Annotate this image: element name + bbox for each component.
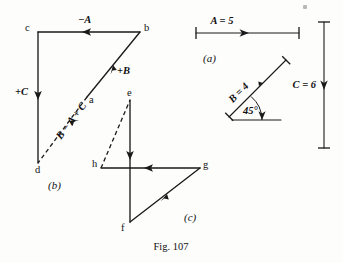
figure-canvas: c b a d −A +C +B B − A + C (b) bbox=[0, 0, 343, 263]
point-label-e: e bbox=[127, 87, 132, 98]
point-label-c: c bbox=[25, 22, 30, 33]
vector-label-minus-a: −A bbox=[78, 14, 91, 25]
point-label-h: h bbox=[92, 158, 98, 169]
point-label-b: b bbox=[144, 22, 149, 33]
panel-label-c: (c) bbox=[184, 211, 197, 224]
vector-label-resultant-b-minus-a-plus-c: B − A + C bbox=[53, 99, 89, 142]
key-vector-b-label: B = 4 bbox=[226, 80, 251, 105]
edge-a-to-b bbox=[87, 32, 140, 97]
figure-caption: Fig. 107 bbox=[153, 241, 188, 252]
edge-h-to-e-dashed bbox=[101, 100, 130, 168]
key-angle-label: 45° bbox=[242, 105, 259, 116]
vector-label-plus-b: +B bbox=[117, 65, 130, 76]
point-label-f: f bbox=[121, 222, 125, 233]
edge-b-to-c bbox=[38, 28, 140, 36]
panel-label-a: (a) bbox=[203, 52, 216, 65]
key-angle-annotation: 45° bbox=[232, 97, 281, 121]
point-label-a: a bbox=[89, 94, 94, 105]
panel-c-group: e f g h (c) bbox=[92, 87, 209, 233]
key-vector-a: A = 5 bbox=[196, 15, 299, 39]
key-vector-c: C = 6 bbox=[293, 22, 331, 148]
edge-c-to-d bbox=[34, 32, 42, 163]
point-label-g: g bbox=[203, 159, 209, 170]
figure-107: c b a d −A +C +B B − A + C (b) bbox=[0, 0, 343, 263]
scan-speck bbox=[303, 5, 307, 9]
panel-label-b: (b) bbox=[48, 179, 61, 192]
point-label-d: d bbox=[35, 164, 41, 175]
edge-g-to-h bbox=[101, 164, 200, 172]
key-vector-c-label: C = 6 bbox=[293, 79, 317, 90]
edge-h-to-e-line bbox=[101, 100, 130, 168]
key-vector-b-arrowhead bbox=[255, 82, 263, 89]
panel-a-key-group: A = 5 (a) B = 4 45° bbox=[196, 5, 330, 148]
panel-b-group: c b a d −A +C +B B − A + C (b) bbox=[15, 14, 149, 192]
edge-a-to-b-line bbox=[87, 32, 140, 97]
vector-label-plus-c: +C bbox=[15, 86, 29, 97]
key-angle-arc-arrowhead bbox=[258, 111, 265, 120]
key-vector-a-label: A = 5 bbox=[210, 15, 234, 26]
edge-e-to-f bbox=[126, 100, 134, 222]
